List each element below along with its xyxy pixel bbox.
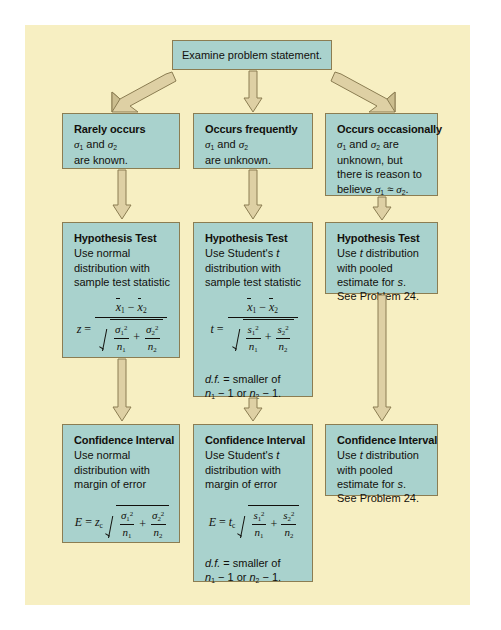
confidence-3-line-1: Use t distribution bbox=[337, 448, 428, 462]
confidence-1-formula: E= zc σ12n1 + σ22n2 bbox=[74, 505, 170, 541]
confidence-2-header: Confidence Interval bbox=[205, 433, 303, 447]
hypothesis-2-line-1: Use Student's t bbox=[205, 246, 303, 260]
confidence-3-line-4: See Problem 24. bbox=[337, 491, 428, 505]
condition-1-header: Rarely occurs bbox=[74, 122, 170, 136]
hypothesis-2-header: Hypothesis Test bbox=[205, 231, 303, 245]
arrow-start-to-condition-3 bbox=[330, 70, 405, 114]
hypothesis-1-line-3: sample test statistic bbox=[74, 275, 170, 289]
condition-2-line-1: σ1 and σ2 bbox=[205, 137, 303, 153]
condition-box-3: Occurs occasionally σ1 and σ2 are unknow… bbox=[325, 113, 438, 196]
confidence-2-line-2: distribution with bbox=[205, 463, 303, 477]
condition-box-2: Occurs frequently σ1 and σ2 are unknown. bbox=[193, 113, 313, 169]
hypothesis-box-3: Hypothesis Test Use t distribution with … bbox=[325, 222, 438, 294]
arrow-start-to-condition-1 bbox=[102, 70, 177, 114]
condition-3-line-1: σ1 and σ2 are bbox=[337, 137, 428, 153]
hypothesis-1-line-2: distribution with bbox=[74, 261, 170, 275]
confidence-3-line-3: estimate for s. bbox=[337, 477, 428, 491]
start-box: Examine problem statement. bbox=[172, 40, 332, 70]
hypothesis-3-line-1: Use t distribution bbox=[337, 246, 428, 260]
hypothesis-box-2: Hypothesis Test Use Student's t distribu… bbox=[193, 222, 313, 397]
condition-box-1: Rarely occurs σ1 and σ2 are known. bbox=[62, 113, 180, 169]
hypothesis-2-line-2: distribution with bbox=[205, 261, 303, 275]
hypothesis-2-formula: t= x1 − x2 s12n1 + s22n2 bbox=[205, 300, 303, 359]
condition-3-line-2: unknown, but bbox=[337, 153, 428, 167]
confidence-1-line-3: margin of error bbox=[74, 477, 170, 491]
condition-3-header: Occurs occasionally bbox=[337, 122, 428, 136]
confidence-1-line-2: distribution with bbox=[74, 463, 170, 477]
arrow-hypothesis-2-to-confidence-2 bbox=[243, 397, 263, 423]
hypothesis-3-line-3: estimate for s. bbox=[337, 275, 428, 289]
condition-2-line-2: are unknown. bbox=[205, 153, 303, 167]
confidence-2-note-1: d.f. = smaller of bbox=[205, 556, 303, 570]
hypothesis-2-note-1: d.f. = smaller of bbox=[205, 372, 303, 386]
condition-2-header: Occurs frequently bbox=[205, 122, 303, 136]
condition-1-line-1: σ1 and σ2 bbox=[74, 137, 170, 153]
confidence-1-line-1: Use normal bbox=[74, 448, 170, 462]
confidence-1-header: Confidence Interval bbox=[74, 433, 170, 447]
confidence-box-2: Confidence Interval Use Student's t dist… bbox=[193, 424, 313, 582]
confidence-2-line-1: Use Student's t bbox=[205, 448, 303, 462]
confidence-2-note-2: n1 − 1 or n2 − 1. bbox=[205, 570, 303, 586]
hypothesis-box-1: Hypothesis Test Use normal distribution … bbox=[62, 222, 180, 358]
hypothesis-2-line-3: sample test statistic bbox=[205, 275, 303, 289]
arrow-condition-2-to-hypothesis-2 bbox=[243, 169, 263, 221]
arrow-hypothesis-3-to-confidence-3 bbox=[372, 294, 392, 423]
hypothesis-1-line-1: Use normal bbox=[74, 246, 170, 260]
start-label: Examine problem statement. bbox=[182, 48, 322, 62]
arrow-start-to-condition-2 bbox=[243, 70, 263, 114]
condition-3-line-3: there is reason to bbox=[337, 167, 428, 181]
hypothesis-3-line-2: with pooled bbox=[337, 261, 428, 275]
hypothesis-1-formula: z= x1 − x2 σ12n1 + σ22n2 bbox=[74, 300, 170, 359]
flowchart-stage: Examine problem statement. Rarely occurs… bbox=[0, 0, 501, 630]
hypothesis-1-header: Hypothesis Test bbox=[74, 231, 170, 245]
arrow-hypothesis-1-to-confidence-1 bbox=[112, 358, 132, 423]
hypothesis-3-header: Hypothesis Test bbox=[337, 231, 428, 245]
confidence-box-3: Confidence Interval Use t distribution w… bbox=[325, 424, 438, 496]
confidence-box-1: Confidence Interval Use normal distribut… bbox=[62, 424, 180, 543]
arrow-condition-3-to-hypothesis-3 bbox=[372, 196, 392, 222]
confidence-3-header: Confidence Interval bbox=[337, 433, 428, 447]
confidence-2-formula: E= tc s12n1 + s22n2 bbox=[205, 505, 303, 541]
arrow-condition-1-to-hypothesis-1 bbox=[112, 169, 132, 221]
condition-1-line-2: are known. bbox=[74, 153, 170, 167]
confidence-2-line-3: margin of error bbox=[205, 477, 303, 491]
confidence-3-line-2: with pooled bbox=[337, 463, 428, 477]
